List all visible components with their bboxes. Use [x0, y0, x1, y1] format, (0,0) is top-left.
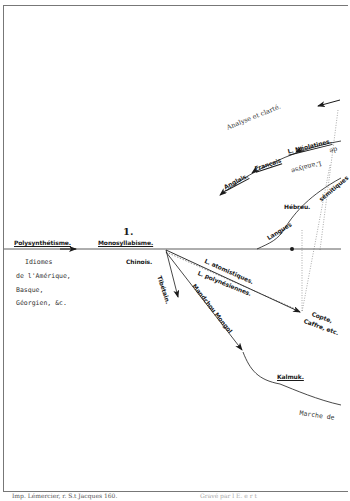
dotted-vertical-3	[320, 110, 338, 250]
node-hebreu: Hébreu.	[284, 204, 310, 210]
node-chinois: Chinois.	[126, 259, 152, 265]
polysynthetism-label: Polysynthétisme.	[14, 240, 71, 246]
note-basque: Basque,	[16, 287, 43, 294]
anglais-arrow	[220, 190, 226, 195]
monosyllabism-label: Monosyllabisme.	[98, 240, 153, 246]
note-amerique: de l'Amérique,	[16, 273, 71, 280]
polynesiennes-branch	[166, 252, 300, 311]
stage-number: 1.	[123, 227, 133, 237]
note-georgien: Géorgien, &c.	[16, 300, 67, 307]
top-arrow	[318, 100, 340, 106]
note-idiomes: Idiomes	[25, 259, 52, 266]
axis-dot	[290, 247, 294, 251]
footer-imprint: Imp. Lémercier, r. S.t Jacques 160.	[12, 492, 117, 499]
node-kalmuk: Kalmuk.	[277, 374, 304, 380]
annotation-inverted-suffix: de	[329, 146, 338, 154]
atomistiques-branch	[166, 250, 300, 312]
neolatin-curve	[220, 141, 341, 195]
footer-engraver: Gravé par l E. e r t	[200, 492, 257, 499]
